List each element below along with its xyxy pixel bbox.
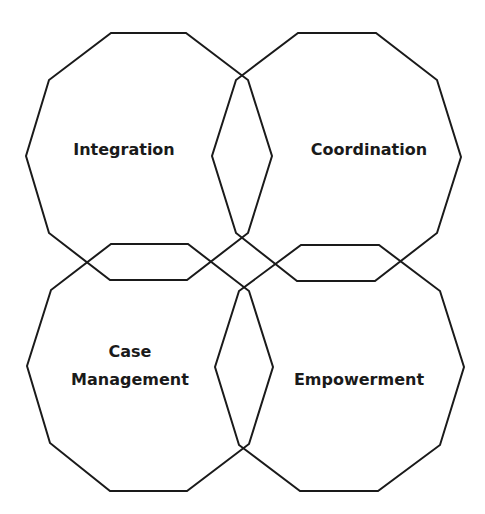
label-case-management-line1: Case — [109, 342, 152, 361]
label-case-management-line2: Management — [71, 370, 189, 389]
label-empowerment: Empowerment — [294, 370, 424, 389]
shape-coordination: Coordination — [212, 33, 461, 281]
shape-integration: Integration — [26, 33, 272, 280]
label-integration: Integration — [73, 140, 175, 159]
decagon-case-management — [27, 244, 273, 491]
overlapping-decagons-diagram: Integration Coordination Case Management… — [0, 0, 485, 514]
shape-case-management: Case Management — [27, 244, 273, 491]
label-coordination: Coordination — [311, 140, 427, 159]
